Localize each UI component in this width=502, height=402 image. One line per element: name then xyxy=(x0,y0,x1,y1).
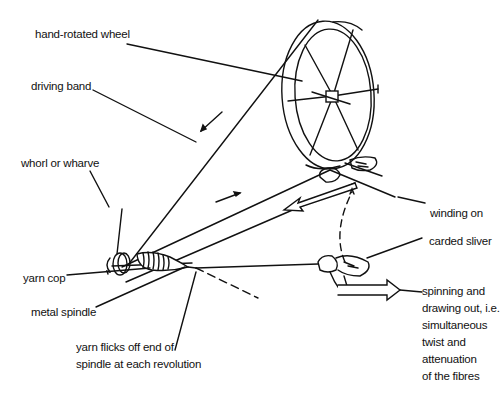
label-hand-rotated-wheel: hand-rotated wheel xyxy=(35,26,130,44)
label-spinning-3: simultaneous xyxy=(422,317,487,335)
label-spinning-4: twist and xyxy=(422,334,466,352)
label-spinning-6: of the fibres xyxy=(422,368,480,386)
label-whorl-or-wharve: whorl or wharve xyxy=(21,155,99,173)
label-carded-sliver: carded sliver xyxy=(429,233,492,251)
wheel-icon xyxy=(277,18,379,172)
label-driving-band: driving band xyxy=(31,78,91,96)
label-metal-spindle: metal spindle xyxy=(31,304,96,322)
label-spinning-1: spinning and xyxy=(422,283,485,301)
label-yarn-flicks-1: yarn flicks off end of xyxy=(76,339,174,357)
label-spinning-2: drawing out, i.e. xyxy=(422,300,500,318)
label-spinning-5: attenuation xyxy=(422,351,477,369)
label-yarn-cop: yarn cop xyxy=(23,270,66,288)
label-winding-on: winding on xyxy=(430,205,483,223)
label-yarn-flicks-2: spindle at each revolution xyxy=(76,356,201,374)
